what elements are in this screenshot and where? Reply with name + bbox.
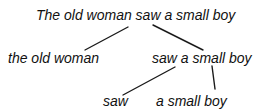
node-object: a small boy bbox=[156, 93, 227, 109]
edge-predicate-to-object bbox=[212, 66, 215, 89]
edge-predicate-to-verb bbox=[123, 67, 175, 95]
node-predicate: saw a small boy bbox=[152, 50, 252, 66]
node-subject: the old woman bbox=[8, 50, 99, 66]
node-verb: saw bbox=[103, 93, 128, 109]
parse-tree-diagram: The old woman saw a small boy the old wo… bbox=[0, 0, 258, 112]
node-root-sentence: The old woman saw a small boy bbox=[36, 7, 235, 23]
edge-root-to-predicate bbox=[153, 25, 203, 50]
edge-root-to-subject bbox=[85, 27, 128, 50]
